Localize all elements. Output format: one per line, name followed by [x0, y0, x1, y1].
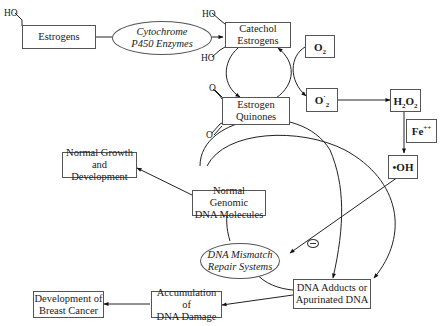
node-label: Estrogens	[237, 35, 278, 47]
node-normal-genomic-dna: Normal Genomic DNA Molecules	[192, 190, 266, 216]
node-o2: O2	[305, 35, 335, 58]
node-estrogens: Estrogens	[22, 25, 96, 49]
edge-adducts-accumulation	[222, 295, 293, 305]
o-label-quinone-top: O	[209, 83, 216, 93]
node-label: O·2	[315, 94, 329, 106]
edge-quinone-to-catechol	[276, 48, 291, 98]
node-label: Normal Growth	[66, 147, 133, 159]
node-label: Estrogens	[38, 31, 79, 43]
estrogen-pathway-diagram: HO Estrogens Cytochrome P450 Enzymes HO …	[0, 0, 444, 326]
node-label: Fe++	[412, 125, 432, 137]
node-label: H2O2	[393, 95, 417, 107]
node-label: P450 Enzymes	[131, 38, 193, 50]
node-cytochrome-p450: Cytochrome P450 Enzymes	[112, 21, 212, 55]
node-dna-adducts: DNA Adducts or Apurinated DNA	[293, 279, 371, 309]
node-label: Estrogen	[237, 99, 274, 111]
node-label: Development of	[35, 293, 103, 305]
node-hydroxyl-radical: •OH	[388, 155, 418, 179]
ho-label-catechol-top: HO	[202, 9, 216, 19]
node-label: Accumulation of	[152, 287, 221, 311]
node-estrogen-quinones: Estrogen Quinones	[222, 97, 290, 125]
edge-catechol-to-quinone	[226, 48, 240, 97]
node-label: DNA Mismatch	[208, 249, 273, 261]
node-label: Cytochrome	[137, 26, 188, 38]
node-normal-growth: Normal Growth and Development	[62, 152, 137, 178]
o-label-quinone-bottom: O	[206, 130, 213, 140]
node-h2o2: H2O2	[390, 89, 421, 112]
node-label: Catechol	[239, 23, 276, 35]
node-label: Repair Systems	[208, 261, 272, 273]
node-label: DNA Adducts or	[297, 282, 368, 294]
ho-label-estrogen: HO	[4, 8, 18, 18]
node-label: DNA Molecules	[195, 209, 264, 221]
node-fe: Fe++	[406, 119, 437, 143]
node-label: DNA Damage	[157, 311, 217, 323]
node-breast-cancer: Development of Breast Cancer	[33, 291, 104, 318]
ho-label-catechol-bottom: HO	[201, 53, 215, 63]
node-label: Breast Cancer	[39, 305, 98, 317]
node-label: Apurinated DNA	[296, 294, 369, 306]
node-dna-mismatch-repair: DNA Mismatch Repair Systems	[200, 243, 280, 279]
node-accumulation-dna-damage: Accumulation of DNA Damage	[151, 291, 222, 318]
node-label: and Development	[63, 159, 136, 183]
node-catechol-estrogens: Catechol Estrogens	[225, 22, 291, 48]
node-label: Normal Genomic	[193, 185, 265, 209]
node-label: •OH	[393, 161, 414, 173]
node-superoxide: O·2	[306, 88, 338, 112]
node-label: Quinones	[236, 111, 276, 123]
inhibition-minus-icon	[307, 239, 319, 248]
o-bond-quinone-top-double	[215, 90, 222, 97]
node-label: O2	[314, 41, 326, 53]
edge-dna-growth	[137, 168, 192, 195]
